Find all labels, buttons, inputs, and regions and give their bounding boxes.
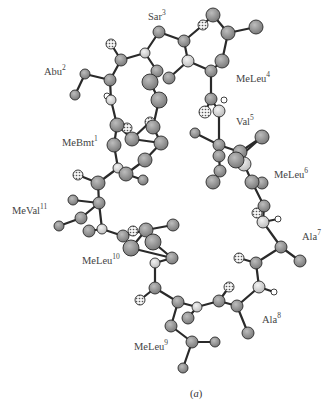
residue-number: 3 [162,8,166,17]
carbon-atom [213,139,225,151]
residue-name: Val [236,116,250,127]
carbon-atom [172,296,184,308]
residue-name: MeLeu [274,169,304,180]
carbon-atom [275,241,287,253]
residue-name: MeVal [12,205,40,216]
residue-name: Ala [302,231,317,242]
carbon-atom [210,337,220,347]
nitrogen-atom [150,258,160,268]
oxygen-atom [106,39,116,49]
carbon-atom [249,20,263,34]
carbon-atom [213,150,225,162]
carbon-atom [151,92,167,108]
oxygen-atom [128,226,138,236]
residue-label-val5: Val5 [236,117,254,128]
carbon-atom [115,54,127,66]
carbon-atom [104,74,116,86]
oxygen-atom [198,20,208,30]
residue-number: 11 [40,202,47,211]
carbon-atom [190,128,200,138]
nitrogen-atom [213,105,225,117]
carbon-atom [146,120,160,134]
residue-number: 4 [266,70,270,79]
carbon-atom [228,152,244,168]
carbon-atom [186,336,198,348]
carbon-atom [117,230,129,242]
carbon-atom [182,312,194,324]
carbon-atom [258,200,270,212]
oxygen-atom [224,282,234,292]
carbon-atom [245,175,259,189]
carbon-atom [213,295,225,307]
carbon-atom [119,167,133,181]
nitrogen-atom [106,95,116,105]
carbon-atom [138,153,152,167]
residue-number: 2 [62,63,66,72]
nitrogen-atom [97,224,107,234]
carbon-atom [83,225,95,237]
figure-caption: (a) [190,388,202,399]
residue-number: 8 [277,311,281,320]
residue-label-meleu10: MeLeu10 [82,256,120,267]
carbon-atom [91,176,105,190]
carbon-atom [70,90,80,100]
residue-label-meleu6: MeLeu6 [274,170,308,181]
carbon-atom [163,72,175,84]
carbon-atom [206,8,220,22]
carbon-atom [107,138,121,152]
carbon-atom [242,327,254,339]
carbon-atom [154,136,168,150]
carbon-atom [54,221,64,231]
residue-number: 1 [94,134,98,143]
nitrogen-atom [257,216,269,228]
carbon-atom [142,74,158,90]
hydrogen-atom [271,289,277,295]
nitrogen-atom [140,48,150,58]
residue-name: MeLeu [82,255,112,266]
carbon-atom [165,320,177,332]
carbon-atom [294,255,306,267]
residue-label-ala7: Ala7 [302,232,321,243]
carbon-atom [80,69,90,79]
nitrogen-atom [182,55,194,67]
residue-label-mebmt1: MeBmt1 [62,138,98,149]
residue-name: MeLeu [134,341,164,352]
carbon-atom [110,118,124,132]
nitrogen-atom [253,281,265,293]
carbon-atom [205,65,217,77]
carbon-atom [231,300,243,312]
carbon-atom [75,212,87,224]
carbon-atom [215,54,229,68]
oxygen-atom [199,106,211,118]
residue-number: 6 [304,166,308,175]
carbon-atom [68,195,78,205]
residue-label-sar3: Sar3 [148,12,166,23]
oxygen-atom [135,295,145,305]
residue-name: Abu [44,66,62,77]
residue-label-meleu4: MeLeu4 [236,74,270,85]
oxygen-atom [234,253,244,263]
carbon-atom [167,219,179,231]
carbon-atom [138,175,148,185]
residue-label-ala8: Ala8 [262,315,281,326]
residue-name: Sar [148,11,162,22]
carbon-atom [178,363,188,373]
carbon-atom [149,282,161,294]
residue-number: 9 [164,338,168,347]
nitrogen-atom [192,302,202,312]
carbon-atom [205,93,217,105]
carbon-atom [153,26,165,38]
residue-name: Ala [262,314,277,325]
residue-number: 10 [112,252,120,261]
residue-label-meval11: MeVal11 [12,206,47,217]
hydrogen-atom [275,216,281,222]
carbon-atom [178,35,190,47]
hydrogen-atom [221,97,227,103]
residue-number: 7 [317,228,321,237]
residue-name: MeLeu [236,73,266,84]
residue-name: MeBmt [62,137,94,148]
caption-letter: a [194,388,199,399]
carbon-atom [166,252,178,264]
residue-label-abu2: Abu2 [44,67,66,78]
carbon-atom [123,240,139,256]
